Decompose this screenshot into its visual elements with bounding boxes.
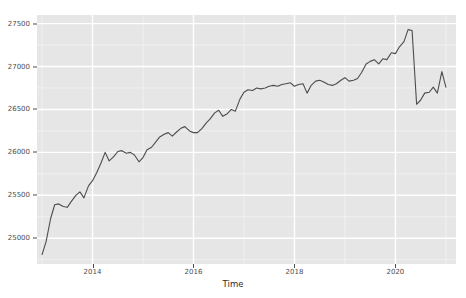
plot-panel bbox=[37, 15, 456, 264]
x-tick-label-2018: 2018 bbox=[274, 268, 314, 276]
y-tick-label-27000: 27000 bbox=[0, 63, 30, 71]
x-tick-mark bbox=[193, 264, 194, 268]
x-tick-label-2014: 2014 bbox=[73, 268, 113, 276]
x-tick-mark bbox=[93, 264, 94, 268]
x-tick-label-2020: 2020 bbox=[375, 268, 415, 276]
x-tick-label-2016: 2016 bbox=[173, 268, 213, 276]
x-axis-title: Time bbox=[0, 279, 466, 289]
time-series-chart: 250002550026000265002700027500 201420162… bbox=[0, 0, 466, 298]
y-tick-label-25000: 25000 bbox=[0, 234, 30, 242]
x-tick-mark bbox=[294, 264, 295, 268]
y-tick-label-26500: 26500 bbox=[0, 105, 30, 113]
y-tick-label-27500: 27500 bbox=[0, 20, 30, 28]
x-tick-mark bbox=[395, 264, 396, 268]
data-series-line bbox=[37, 15, 456, 264]
y-tick-label-26000: 26000 bbox=[0, 148, 30, 156]
y-tick-label-25500: 25500 bbox=[0, 191, 30, 199]
